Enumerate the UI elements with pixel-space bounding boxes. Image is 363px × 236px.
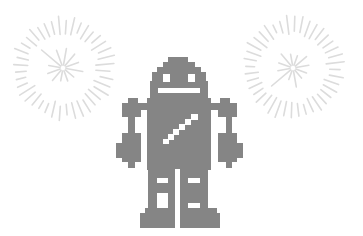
robot-right-leg-band-2	[188, 203, 200, 208]
pixel-art-scene	[0, 0, 363, 236]
robot-left-eye	[163, 74, 170, 82]
robot-chest-stripe-5	[185, 119, 191, 125]
robot-left-leg-band	[157, 178, 168, 183]
robot-left-hand	[122, 133, 141, 162]
robot-left-arm-shaft	[128, 116, 135, 134]
robot-left-hand-bulge	[116, 143, 123, 158]
robot-right-leg-band	[188, 178, 200, 183]
firework-ray	[294, 16, 295, 31]
firework-ray	[291, 103, 292, 118]
robot-head-top	[168, 57, 188, 62]
robot-head-main	[152, 72, 206, 82]
firework-ray	[96, 70, 110, 71]
robot-left-shoulder	[140, 103, 148, 110]
robot-right-shoulder	[210, 103, 219, 110]
firework-ray	[59, 106, 60, 120]
robot-chest-stripe-3	[173, 129, 179, 135]
firework-ray	[66, 104, 67, 115]
firework-ray	[16, 71, 27, 72]
robot-right-arm-shaft	[226, 116, 232, 134]
robot-mouth	[158, 88, 200, 93]
robot-right-foot	[180, 213, 220, 228]
robot-right-finger	[226, 161, 232, 168]
robot-chest-stripe-4	[179, 124, 185, 130]
robot-left-foot	[140, 213, 175, 228]
robot-left-leg-window	[157, 193, 168, 208]
robot-right-hand	[218, 133, 237, 162]
firework-ray	[65, 21, 66, 35]
robot-leg-gap	[175, 169, 180, 228]
robot-chest-stripe-6	[191, 114, 198, 120]
robot-right-hand-bulge	[236, 143, 243, 158]
robot-right-eye	[188, 74, 195, 82]
firework-ray	[14, 65, 28, 66]
robot-left-arm-top	[122, 103, 141, 117]
robot-right-arm-top	[218, 103, 237, 117]
robot-left-finger	[128, 161, 135, 168]
